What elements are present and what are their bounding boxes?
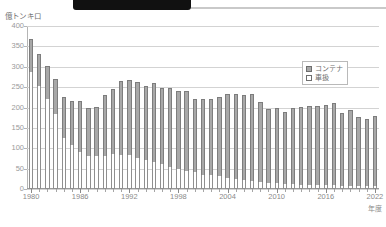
- bar-segment-container: [340, 113, 344, 186]
- bar-slot: [264, 26, 272, 189]
- x-axis-tick-label: 1992: [121, 192, 138, 201]
- bar-segment-carload: [176, 169, 180, 189]
- stacked-bar: [332, 103, 336, 189]
- bar-segment-container: [62, 97, 66, 138]
- bar-segment-carload: [37, 86, 41, 190]
- stacked-bar: [365, 119, 369, 189]
- stacked-bar: [299, 107, 303, 189]
- stacked-bar: [119, 81, 123, 189]
- bar-segment-container: [324, 105, 328, 185]
- x-axis-title: 年度: [368, 203, 382, 213]
- bar-segment-container: [111, 89, 115, 154]
- legend-item-container: コンテナ: [306, 64, 343, 73]
- bar-segment-carload: [242, 180, 246, 189]
- bar-slot: [232, 26, 240, 189]
- bar-segment-container: [29, 39, 33, 72]
- bar-segment-container: [332, 103, 336, 185]
- bar-segment-container: [291, 108, 295, 184]
- bar-segment-container: [250, 94, 254, 180]
- stacked-bar: [70, 101, 74, 189]
- bar-segment-container: [373, 116, 377, 186]
- bar-segment-carload: [144, 160, 148, 189]
- bar-slot: [183, 26, 191, 189]
- stacked-bar: [103, 95, 107, 189]
- y-axis-tick-label: 350: [11, 43, 24, 51]
- bar-segment-container: [234, 94, 238, 178]
- bar-slot: [215, 26, 223, 189]
- bar-slot: [35, 26, 43, 189]
- stacked-bar: [184, 91, 188, 189]
- y-axis-tick-label: 250: [11, 83, 24, 91]
- bar-segment-container: [152, 83, 156, 162]
- bar-segment-carload: [70, 145, 74, 189]
- bar-slot: [60, 26, 68, 189]
- bar-slot: [248, 26, 256, 189]
- bar-segment-carload: [160, 164, 164, 189]
- bar-segment-carload: [29, 72, 33, 189]
- bar-segment-carload: [184, 171, 188, 189]
- x-axis-tick-label: 2010: [268, 192, 285, 201]
- bar-segment-container: [160, 88, 164, 165]
- bar-slot: [289, 26, 297, 189]
- x-axis-tick-label: 2022: [367, 192, 384, 201]
- x-axis-tick-label: 1980: [23, 192, 40, 201]
- bar-segment-container: [299, 107, 303, 184]
- banner-rule: [191, 7, 386, 9]
- bar-segment-carload: [45, 99, 49, 189]
- legend-label-container: コンテナ: [315, 65, 343, 72]
- y-axis-tick-label: 300: [11, 63, 24, 71]
- stacked-bar: [324, 105, 328, 189]
- bar-segment-container: [176, 91, 180, 168]
- bar-series: [27, 26, 379, 189]
- bar-slot: [363, 26, 371, 189]
- legend-swatch-container-icon: [306, 66, 312, 72]
- bar-slot: [314, 26, 322, 189]
- bar-segment-carload: [168, 167, 172, 189]
- bar-slot: [125, 26, 133, 189]
- bar-slot: [338, 26, 346, 189]
- bar-slot: [142, 26, 150, 189]
- bar-segment-carload: [217, 176, 221, 189]
- legend-item-carload: 車扱: [306, 73, 343, 82]
- stacked-bar: [209, 99, 213, 189]
- stacked-bar: [94, 107, 98, 189]
- stacked-bar: [168, 88, 172, 189]
- bar-segment-carload: [111, 154, 115, 189]
- bar-segment-container: [315, 106, 319, 185]
- stacked-bar: [37, 54, 41, 189]
- stacked-bar: [111, 89, 115, 189]
- bar-slot: [150, 26, 158, 189]
- bar-segment-container: [266, 109, 270, 183]
- bar-segment-container: [37, 54, 41, 86]
- y-axis-tick-label: 400: [11, 22, 24, 30]
- bar-slot: [101, 26, 109, 189]
- stacked-bar: [135, 82, 139, 189]
- legend-swatch-carload-icon: [306, 75, 312, 81]
- bar-segment-container: [127, 80, 131, 155]
- bar-segment-carload: [103, 156, 107, 189]
- bar-segment-container: [94, 107, 98, 156]
- stacked-bar: [176, 91, 180, 189]
- y-axis-tick-label: 150: [11, 124, 24, 132]
- bar-slot: [322, 26, 330, 189]
- bar-segment-container: [209, 99, 213, 175]
- y-axis-unit-label: 億トンキロ: [5, 10, 41, 21]
- bar-segment-container: [78, 101, 82, 152]
- stacked-bar: [62, 97, 66, 189]
- stacked-bar: [29, 39, 33, 189]
- bar-segment-container: [242, 95, 246, 180]
- bar-segment-carload: [250, 181, 254, 189]
- bar-slot: [281, 26, 289, 189]
- bar-segment-container: [275, 108, 279, 184]
- legend: コンテナ 車扱: [302, 61, 348, 85]
- bar-slot: [240, 26, 248, 189]
- bar-slot: [117, 26, 125, 189]
- bar-segment-container: [135, 82, 139, 158]
- stacked-bar: [315, 106, 319, 189]
- bar-slot: [224, 26, 232, 189]
- bar-segment-carload: [201, 175, 205, 189]
- bar-slot: [371, 26, 379, 189]
- bar-segment-carload: [209, 175, 213, 189]
- stacked-bar: [275, 108, 279, 189]
- bar-segment-container: [307, 106, 311, 185]
